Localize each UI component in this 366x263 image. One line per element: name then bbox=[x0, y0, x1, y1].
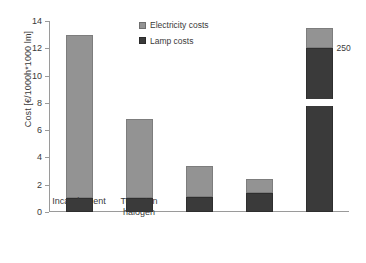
legend-swatch-lamp-icon bbox=[139, 37, 146, 44]
bar-segment-electricity-costs[interactable] bbox=[126, 119, 153, 198]
legend-label-lamp: Lamp costs bbox=[150, 37, 193, 46]
chart-legend: Electricity costs Lamp costs bbox=[139, 21, 209, 52]
y-tick-label: 0 bbox=[37, 208, 42, 217]
y-tick-mark bbox=[45, 21, 49, 22]
x-axis-category-label: OLED bbox=[276, 196, 362, 207]
cost-comparison-bar-chart: Cost [€/1000h*1000 lm] 02468101214 250 I… bbox=[0, 0, 366, 263]
legend-label-electricity: Electricity costs bbox=[150, 21, 209, 30]
y-tick-label: 4 bbox=[37, 153, 42, 162]
legend-swatch-electricity-icon bbox=[139, 22, 146, 29]
y-tick-mark bbox=[45, 48, 49, 49]
y-tick-label: 2 bbox=[37, 180, 42, 189]
data-annotation-label: 250 bbox=[337, 44, 351, 53]
bar-segment-electricity-costs[interactable] bbox=[306, 28, 333, 48]
bar-segment-lamp-costs[interactable] bbox=[306, 48, 333, 212]
bar-group[interactable] bbox=[246, 21, 273, 212]
bar-segment-electricity-costs[interactable] bbox=[186, 166, 213, 197]
y-tick-mark bbox=[45, 185, 49, 186]
legend-item-lamp: Lamp costs bbox=[139, 37, 209, 46]
bar-group[interactable] bbox=[306, 21, 333, 212]
y-tick-mark bbox=[45, 103, 49, 104]
bar-segment-electricity-costs[interactable] bbox=[246, 179, 273, 193]
y-tick-mark bbox=[45, 157, 49, 158]
axis-break-gap bbox=[305, 99, 334, 106]
legend-item-electricity: Electricity costs bbox=[139, 21, 209, 30]
y-tick-mark bbox=[45, 76, 49, 77]
x-axis-category-label-line: OLED bbox=[276, 196, 362, 207]
y-tick-label: 12 bbox=[32, 44, 42, 53]
y-tick-label: 14 bbox=[32, 17, 42, 26]
x-axis-category-label-line: halogen bbox=[96, 207, 182, 218]
y-tick-label: 10 bbox=[32, 71, 42, 80]
y-tick-label: 8 bbox=[37, 98, 42, 107]
bar-segment-electricity-costs[interactable] bbox=[66, 35, 93, 199]
y-tick-label: 6 bbox=[37, 126, 42, 135]
bar-group[interactable] bbox=[66, 21, 93, 212]
y-tick-mark bbox=[45, 130, 49, 131]
y-axis-line bbox=[49, 21, 50, 212]
y-tick-mark bbox=[45, 212, 49, 213]
